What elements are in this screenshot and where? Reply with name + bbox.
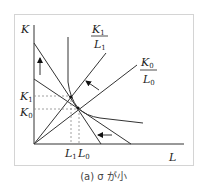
x-axis-label: L xyxy=(168,151,176,164)
svg-text:L0: L0 xyxy=(142,73,155,87)
tick-k0: K0 xyxy=(19,106,33,120)
tick-k1: K1 xyxy=(19,90,33,104)
arrow-rotate-icon xyxy=(86,81,99,90)
isoquant-diagram: K L K1 L1 K0 L0 K1 K0 L1 L0 xyxy=(0,0,207,188)
svg-text:L1: L1 xyxy=(93,38,106,52)
tick-l1: L1 xyxy=(64,147,77,161)
tick-l0: L0 xyxy=(77,147,90,161)
svg-text:K1: K1 xyxy=(91,23,105,37)
ray-k1-l1 xyxy=(34,53,106,144)
ray-k0-l0 xyxy=(34,65,137,144)
y-axis-label: K xyxy=(20,23,30,36)
svg-text:K0: K0 xyxy=(140,56,154,70)
figure-caption: (a) σ が小 xyxy=(0,168,207,183)
